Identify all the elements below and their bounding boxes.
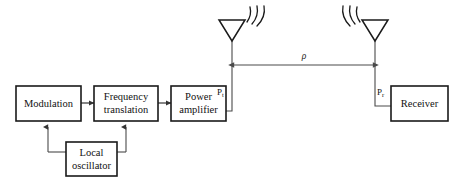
- transmit-power-subscript: t: [222, 91, 224, 98]
- block-frequency-translation[interactable]: Frequency translation: [94, 86, 158, 121]
- block-local-oscillator[interactable]: Local oscillator: [66, 142, 117, 176]
- receive-power-label: Pr: [377, 87, 385, 98]
- radio-link-diagram: Modulation Frequency translation Power a…: [0, 0, 462, 190]
- receive-antenna-radiation-arcs: [343, 6, 360, 26]
- block-local-oscillator-label-line2: oscillator: [72, 160, 112, 171]
- block-power-amplifier-label-line1: Power: [185, 91, 212, 102]
- block-modulation[interactable]: Modulation: [16, 86, 81, 121]
- distance-label-rho: ρ: [301, 51, 307, 61]
- block-receiver-label: Receiver: [401, 98, 439, 109]
- transmit-antenna-triangle: [219, 20, 245, 41]
- block-frequency-translation-label-line2: translation: [104, 104, 149, 115]
- block-modulation-label: Modulation: [24, 98, 74, 109]
- receive-antenna-triangle: [362, 20, 388, 41]
- block-frequency-translation-label-line1: Frequency: [104, 91, 149, 102]
- receive-power-subscript: r: [382, 91, 385, 98]
- block-receiver[interactable]: Receiver: [391, 86, 448, 121]
- transmit-antenna: [219, 6, 264, 41]
- block-local-oscillator-label-line1: Local: [80, 147, 104, 158]
- diagram-canvas: Modulation Frequency translation Power a…: [0, 0, 462, 190]
- transmit-antenna-radiation-arcs: [247, 6, 264, 26]
- block-power-amplifier-label-line2: amplifier: [179, 104, 218, 115]
- receive-antenna: [343, 6, 388, 41]
